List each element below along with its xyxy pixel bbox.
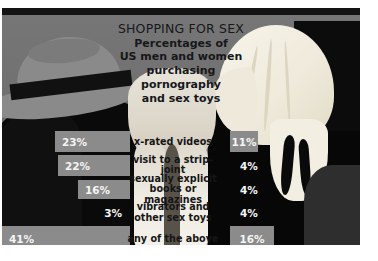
infographic-screenshot: SHOPPING FOR SEX Percentages of US men a… [0,0,378,261]
bar-women: 11% [230,131,258,152]
category-label-line: other sex toys [121,213,225,224]
bar-value-women: 4% [240,160,258,172]
category-label: x-rated videos [121,136,225,147]
chart-row: 23%11%x-rated videos [2,131,360,152]
top-dark-band [2,8,360,15]
chart-row: 16%4%sexually explicitbooks or magazines [2,180,360,199]
bar-men: 41% [2,226,130,245]
bar-women: 16% [230,226,274,245]
chart-row: 41%16%any of the above [2,226,360,245]
bar-value-men: 23% [55,136,94,148]
chart-row: 3%4%vibrators andother sex toys [2,203,360,223]
category-label: any of the above [121,234,225,245]
bar-value-men: 3% [104,207,122,219]
bar-value-women: 4% [240,184,258,196]
category-label-line: x-rated videos [121,136,225,147]
bar-value-women: 16% [232,233,271,245]
diverging-bar-chart: 23%11%x-rated videos22%4%visit to a stri… [2,15,360,245]
bar-men: 23% [55,131,130,152]
bar-value-men: 41% [2,233,41,245]
infographic-artboard: SHOPPING FOR SEX Percentages of US men a… [2,8,360,245]
category-label-line: any of the above [121,234,225,245]
bar-value-men: 22% [58,160,97,172]
bar-men: 22% [58,155,130,176]
category-label: vibrators andother sex toys [121,202,225,223]
bar-value-women: 4% [240,207,258,219]
bar-value-men: 16% [78,184,117,196]
bar-value-women: 11% [224,136,263,148]
